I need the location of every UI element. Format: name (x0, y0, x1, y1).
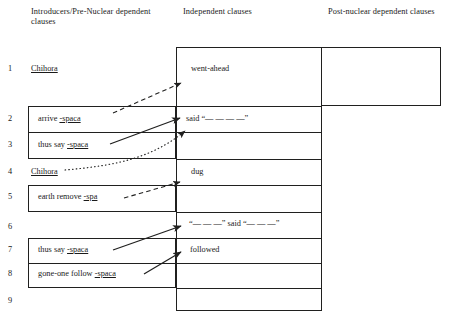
cell-independent-row-7: followed (190, 245, 220, 255)
row-number-5: 5 (8, 192, 20, 202)
indep-divider-4 (176, 185, 322, 186)
introducers-divider-rows-2-3 (28, 132, 176, 133)
cell-introducers-row-1: Chihora (31, 64, 58, 74)
cell-introducers-row-4: Chihora (31, 167, 58, 177)
cell-introducers-row-3: thus say -spaca (38, 140, 88, 150)
cell-independent-row-2: said “— — — —” (186, 114, 248, 124)
introducers-divider-rows-7-8 (28, 263, 176, 264)
cell-introducers-row-8: gone-one follow -spaca (38, 269, 116, 279)
row-number-3: 3 (8, 140, 20, 150)
row-number-4: 4 (8, 167, 20, 177)
cell-independent-row-1: went-ahead (191, 64, 229, 74)
indep-divider-5 (176, 212, 322, 213)
row-number-7: 7 (8, 245, 20, 255)
postnuclear-row1-box (321, 47, 441, 106)
column-header-independent: Independent clauses (183, 7, 303, 17)
row-number-1: 1 (8, 64, 20, 74)
indep-divider-3 (176, 159, 322, 160)
cell-introducers-row-7: thus say -spaca (38, 245, 88, 255)
row-number-6: 6 (8, 222, 20, 232)
row-number-2: 2 (8, 114, 20, 124)
cell-independent-row-4: dug (191, 167, 203, 177)
column-header-postnuclear: Post-nuclear dependent clauses (328, 7, 448, 17)
row-number-8: 8 (8, 269, 20, 279)
cell-introducers-row-5: earth remove -spa (38, 192, 97, 202)
independent-column-frame (176, 47, 322, 311)
indep-divider-7 (176, 263, 322, 264)
indep-divider-2 (176, 132, 322, 133)
indep-divider-6 (176, 238, 322, 239)
diagram-canvas: Introducers/Pre-Nuclear dependent clause… (0, 0, 452, 326)
column-header-introducers: Introducers/Pre-Nuclear dependent clause… (31, 7, 166, 28)
cell-independent-row-6: “— — —” said “— — —” (189, 219, 279, 229)
indep-divider-1 (176, 106, 322, 107)
cell-introducers-row-2: arrive -spaca (38, 114, 81, 124)
indep-divider-8 (176, 288, 322, 289)
row-number-9: 9 (8, 296, 20, 306)
